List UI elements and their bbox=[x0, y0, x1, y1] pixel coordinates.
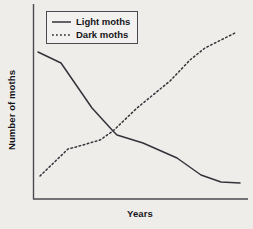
series-line-light-moths bbox=[38, 52, 240, 183]
series-line-dark-moths bbox=[40, 33, 235, 176]
legend-label-light-moths: Light moths bbox=[76, 17, 130, 27]
x-axis-title: Years bbox=[127, 208, 153, 219]
y-axis-title: Number of moths bbox=[6, 70, 17, 150]
legend-item-dark-moths: Dark moths bbox=[52, 28, 132, 41]
dotted-line-sample-icon bbox=[52, 30, 71, 40]
legend-item-light-moths: Light moths bbox=[52, 15, 132, 28]
moth-population-line-chart: Light moths Dark moths Number of moths Y… bbox=[0, 0, 253, 229]
legend: Light moths Dark moths bbox=[46, 11, 138, 44]
solid-line-sample-icon bbox=[52, 17, 71, 27]
legend-label-dark-moths: Dark moths bbox=[76, 30, 128, 40]
